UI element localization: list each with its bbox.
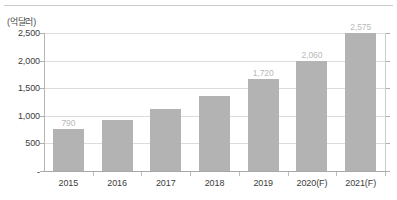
y-axis-line-right: [385, 33, 386, 172]
x-tick-label-2021(F): 2021(F): [345, 178, 376, 188]
x-tick-label-2018: 2018: [205, 178, 225, 188]
bar-value-label-2015: 790: [61, 118, 75, 128]
y-axis-tick-labels: 2,500 2,000 1,500 1,000 500 -: [0, 33, 40, 171]
x-tick-label-2017: 2017: [156, 178, 176, 188]
y-tick-mark-right-1000: [386, 116, 390, 117]
y-tick-label-2000: 2,000: [0, 56, 40, 66]
x-tick-label-2020(F): 2020(F): [297, 178, 328, 188]
x-tick-mark-2016: [141, 172, 142, 176]
bar-chart-figure: (억달러) 2,500 2,000 1,500 1,000 500 - 7901…: [0, 0, 397, 200]
x-tick-mark-2020(F): [336, 172, 337, 176]
x-axis-line: [44, 171, 386, 172]
y-tick-mark-right-500: [386, 143, 390, 144]
y-tick-label-2500: 2,500: [0, 28, 40, 38]
bar-2021(F): [345, 33, 376, 171]
bar-2020(F): [296, 61, 327, 171]
bar-value-label-2019: 1,720: [253, 68, 274, 78]
bar-2016: [102, 120, 133, 171]
bar-value-label-2020(F): 2,060: [302, 50, 323, 60]
y-tick-mark-right-1500: [386, 88, 390, 89]
x-tick-mark-2018: [239, 172, 240, 176]
y-tick-mark-right-2000: [386, 61, 390, 62]
bars-container: [44, 33, 385, 171]
x-tick-mark-2019: [288, 172, 289, 176]
y-tick-label-1000: 1,000: [0, 111, 40, 121]
bar-value-label-2021(F): 2,575: [350, 22, 371, 32]
y-tick-mark-right-0: [386, 171, 390, 172]
x-tick-label-2015: 2015: [59, 178, 79, 188]
y-tick-label-500: 500: [0, 138, 40, 148]
x-tick-label-2019: 2019: [253, 178, 273, 188]
y-tick-label-1500: 1,500: [0, 83, 40, 93]
x-tick-mark-2021(F): [385, 172, 386, 176]
top-divider-rule: [4, 5, 393, 6]
bar-2015: [53, 129, 84, 171]
x-tick-mark-2017: [190, 172, 191, 176]
bar-2019: [248, 79, 279, 171]
y-axis-unit-caption: (억달러): [7, 15, 36, 28]
y-tick-mark-right-2500: [386, 33, 390, 34]
y-tick-label-0: -: [0, 166, 40, 177]
bar-2017: [150, 109, 181, 171]
x-tick-mark-2015: [93, 172, 94, 176]
x-tick-label-2016: 2016: [107, 178, 127, 188]
bar-2018: [199, 96, 230, 171]
